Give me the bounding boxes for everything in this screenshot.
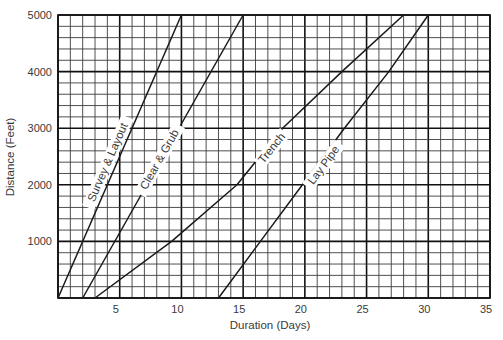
x-axis-ticks: 5101520253035 bbox=[113, 303, 492, 315]
plot-frame bbox=[58, 15, 490, 298]
x-tick-label: 10 bbox=[171, 303, 183, 315]
x-tick-label: 20 bbox=[295, 303, 307, 315]
y-tick-label: 4000 bbox=[28, 66, 52, 78]
x-tick-label: 15 bbox=[233, 303, 245, 315]
series-label-group: Clear & Grub bbox=[134, 122, 185, 198]
y-axis-title: Distance (Feet) bbox=[4, 118, 16, 197]
series-label: Lay Pipe bbox=[305, 143, 341, 186]
y-tick-label: 3000 bbox=[28, 122, 52, 134]
y-tick-label: 2000 bbox=[28, 179, 52, 191]
series-label: Trench bbox=[256, 130, 288, 165]
line-chart: Survey & LayoutClear & GrubTrenchLay Pip… bbox=[0, 0, 503, 340]
y-axis-ticks: 10002000300040005000 bbox=[28, 9, 52, 247]
y-tick-label: 1000 bbox=[28, 235, 52, 247]
x-tick-label: 30 bbox=[418, 303, 430, 315]
x-tick-label: 35 bbox=[480, 303, 492, 315]
x-axis-title: Duration (Days) bbox=[230, 319, 311, 331]
y-tick-label: 5000 bbox=[28, 9, 52, 21]
chart-grid bbox=[58, 15, 490, 298]
x-tick-label: 25 bbox=[356, 303, 368, 315]
x-tick-label: 5 bbox=[113, 303, 119, 315]
series-label-group: Lay Pipe bbox=[302, 140, 345, 191]
